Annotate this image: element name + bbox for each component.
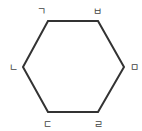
hexagon-outline (23, 21, 124, 112)
vertex-label-top-left: ㄱ (37, 6, 46, 17)
vertex-label-top-right: ㅂ (93, 6, 102, 17)
vertex-label-left: ㄴ (9, 62, 18, 73)
vertex-label-bottom-left: ㄷ (43, 119, 52, 130)
vertex-label-bottom-right: ㄹ (94, 119, 103, 130)
hexagon-diagram: ㄱ ㅂ ㅁ ㄹ ㄷ ㄴ (0, 0, 142, 131)
vertex-label-right: ㅁ (130, 62, 139, 73)
